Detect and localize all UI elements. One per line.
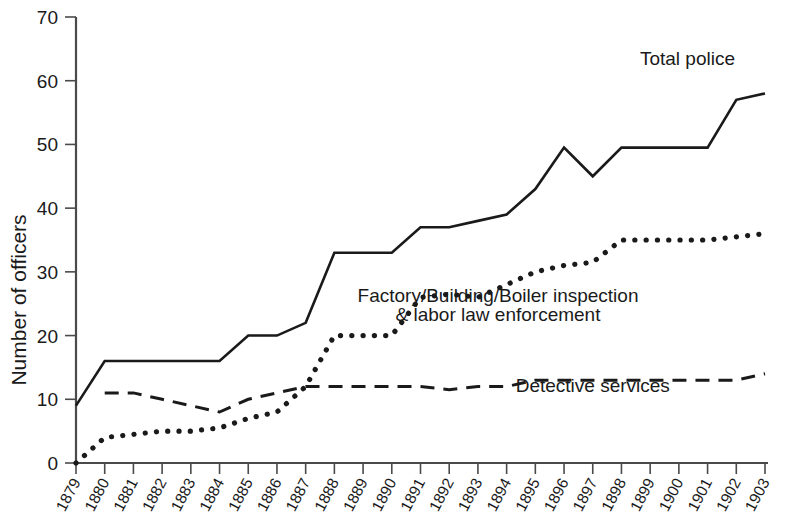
x-tick-label: 1894 xyxy=(483,475,514,514)
x-tick-label: 1889 xyxy=(340,475,371,513)
series-layer xyxy=(76,93,765,463)
x-tick-label: 1890 xyxy=(368,475,399,514)
x-tick-label: 1903 xyxy=(741,475,772,513)
x-tick-label: 1901 xyxy=(684,475,715,513)
x-tick-label: 1887 xyxy=(282,475,313,513)
y-tick-label: 20 xyxy=(37,326,58,347)
x-tick-label: 1882 xyxy=(139,475,170,513)
x-tick-label: 1884 xyxy=(196,475,227,514)
y-axis-tick-labels: 010203040506070 xyxy=(37,7,58,474)
y-tick-label: 50 xyxy=(37,134,58,155)
x-tick-label: 1879 xyxy=(52,475,83,513)
series-annotations: Total policeFactory/Building/Boiler insp… xyxy=(358,48,735,396)
y-axis-ticks xyxy=(65,17,76,463)
x-tick-label: 1897 xyxy=(569,475,600,513)
y-axis-title: Number of officers xyxy=(7,214,30,385)
y-tick-label: 10 xyxy=(37,389,58,410)
x-tick-label: 1899 xyxy=(627,475,658,513)
series-annotation-label: & labor law enforcement xyxy=(396,304,602,325)
x-tick-label: 1883 xyxy=(167,475,198,513)
y-tick-label: 60 xyxy=(37,71,58,92)
series-annotation-label: Total police xyxy=(640,48,735,69)
x-tick-label: 1895 xyxy=(512,475,543,513)
x-tick-label: 1896 xyxy=(540,475,571,513)
x-axis-ticks xyxy=(76,463,765,474)
y-tick-label: 70 xyxy=(37,7,58,28)
x-axis-tick-labels: 1879188018811882188318841885188618871888… xyxy=(52,475,772,514)
series-line-0 xyxy=(76,93,765,405)
line-chart-canvas: Number of officers 010203040506070 18791… xyxy=(0,0,792,515)
x-tick-label: 1891 xyxy=(397,475,428,513)
chart-figure: Number of officers 010203040506070 18791… xyxy=(0,0,792,515)
x-tick-label: 1886 xyxy=(253,475,284,513)
x-tick-label: 1885 xyxy=(225,475,256,513)
x-tick-label: 1881 xyxy=(110,475,141,513)
x-tick-label: 1893 xyxy=(454,475,485,513)
y-tick-label: 30 xyxy=(37,262,58,283)
x-tick-label: 1902 xyxy=(713,475,744,513)
y-tick-label: 0 xyxy=(47,453,58,474)
y-tick-label: 40 xyxy=(37,198,58,219)
x-tick-label: 1898 xyxy=(598,475,629,513)
x-tick-label: 1888 xyxy=(311,475,342,513)
series-annotation-label: Detective services xyxy=(516,375,670,396)
x-tick-label: 1892 xyxy=(426,475,457,513)
x-tick-label: 1900 xyxy=(655,475,686,514)
x-tick-label: 1880 xyxy=(81,475,112,514)
series-annotation-label: Factory/Building/Boiler inspection xyxy=(358,285,639,306)
series-line-1 xyxy=(76,234,765,463)
